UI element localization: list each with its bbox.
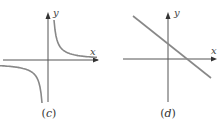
- y-axis-arrow-icon: [46, 12, 51, 19]
- x-axis-label: x: [90, 46, 96, 57]
- x-axis-arrow-icon: [93, 58, 99, 63]
- graph-panel-d: x y (d): [109, 0, 218, 126]
- y-axis-label: y: [52, 7, 59, 18]
- x-axis-label: x: [211, 45, 217, 56]
- caption-d: (d): [160, 107, 176, 120]
- caption-c: (c): [42, 107, 57, 120]
- graph-panel-c: x y (c): [0, 0, 109, 126]
- y-axis-label: y: [173, 7, 180, 18]
- graph-c-svg: x y (c): [0, 0, 109, 126]
- graph-d-svg: x y (d): [109, 0, 218, 126]
- x-axis-arrow-icon: [211, 57, 217, 62]
- decreasing-line: [133, 16, 211, 78]
- hyperbola-branch-q3: [0, 66, 42, 103]
- y-axis-arrow-icon: [166, 12, 171, 19]
